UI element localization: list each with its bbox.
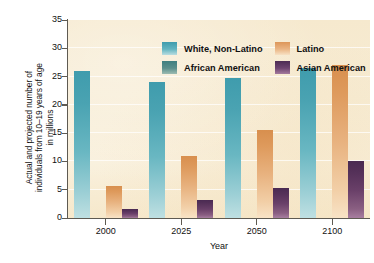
x-axis-tick [181, 219, 182, 225]
legend-item-latino: Latino [275, 42, 366, 55]
bar-chart: Actual and projected number of individua… [0, 0, 374, 263]
y-axis-tick [62, 189, 68, 190]
y-axis-tick-label: 35 [36, 14, 62, 24]
legend-label-white-non-latino: White, Non-Latino [184, 44, 263, 54]
y-axis-tick-label: 30 [36, 42, 62, 52]
x-axis-line [67, 218, 370, 219]
plot-area: White, Non-Latino Latino African America… [68, 20, 370, 218]
legend-item-african-american: African American [162, 61, 263, 74]
bar [74, 71, 90, 218]
legend-item-asian-american: Asian American [275, 61, 366, 74]
gridline [68, 132, 370, 133]
legend-swatch-icon-african-american [162, 61, 177, 74]
bar [241, 177, 257, 218]
legend-label-latino: Latino [297, 44, 325, 54]
legend-swatch-icon-white-non-latino [162, 42, 177, 55]
gridline [68, 160, 370, 161]
bar [273, 188, 289, 218]
y-axis-tick-label: 25 [36, 71, 62, 81]
x-axis-tick [332, 219, 333, 225]
bar [316, 164, 332, 218]
legend-swatch-icon-asian-american [275, 61, 290, 74]
legend-label-asian-american: Asian American [297, 63, 366, 73]
y-axis-tick [62, 161, 68, 162]
y-axis-tick [62, 133, 68, 134]
x-axis-tick [256, 219, 257, 225]
x-axis-tick-label: 2100 [302, 226, 362, 236]
bar [300, 68, 316, 218]
y-axis-tick-label: 0 [36, 212, 62, 222]
y-axis-tick [62, 20, 68, 21]
bar [348, 161, 364, 218]
legend-item-white-non-latino: White, Non-Latino [162, 42, 263, 55]
y-axis-tick-label: 15 [36, 127, 62, 137]
legend: White, Non-Latino Latino African America… [162, 42, 366, 74]
y-axis-tick-label: 10 [36, 155, 62, 165]
bar [90, 186, 106, 218]
bar [122, 209, 138, 218]
bar [225, 78, 241, 218]
legend-label-african-american: African American [184, 63, 260, 73]
x-axis-tick [105, 219, 106, 225]
x-axis-title: Year [68, 241, 370, 251]
x-axis-tick-label: 2050 [227, 226, 287, 236]
gridline [68, 19, 370, 20]
y-axis-tick [62, 48, 68, 49]
y-axis-tick [62, 104, 68, 105]
bar [257, 130, 273, 218]
bar [149, 82, 165, 218]
y-axis-tick-label: 5 [36, 184, 62, 194]
bar [332, 65, 348, 218]
bar [106, 186, 122, 218]
x-axis-tick-label: 2000 [76, 226, 136, 236]
bar [197, 200, 213, 218]
bar [165, 182, 181, 218]
x-axis-tick-label: 2025 [151, 226, 211, 236]
gridline [68, 76, 370, 77]
gridline [68, 104, 370, 105]
y-axis-tick [62, 76, 68, 77]
y-axis-tick-label: 20 [36, 99, 62, 109]
bar [181, 156, 197, 218]
legend-swatch-icon-latino [275, 42, 290, 55]
y-axis-tick [62, 218, 68, 219]
